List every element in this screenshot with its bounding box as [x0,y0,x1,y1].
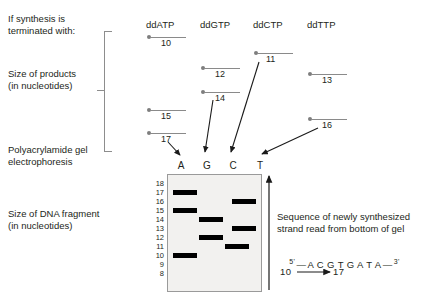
arrow-to-lane-G [205,100,213,152]
sequence-dash-right: — [381,259,393,270]
arrow-to-lane-T [262,128,318,154]
ladder-number-9: 9 [152,261,164,269]
ladder-number-16: 16 [152,198,164,206]
size-of-dna-fragment-label: Size of DNA fragment (in nucleotides) [8,208,99,231]
gel-band-A-15 [173,208,197,213]
lane-label-A: A [174,160,188,171]
product-size-value: 17 [161,134,171,144]
sequence-start-number: 10 [280,266,291,277]
ladder-number-10: 10 [152,252,164,260]
product-size-value: 16 [322,120,332,130]
gel-band-G-14 [199,217,223,222]
gel-band-C-11 [225,244,249,249]
ladder-number-17: 17 [152,189,164,197]
column-header-ddATP: ddATP [146,19,174,30]
lane-label-G: G [200,160,214,171]
ladder-number-11: 11 [152,243,164,251]
arrow-to-lane-C [231,62,259,152]
gel-band-T-13 [232,226,256,231]
lane-label-T: T [253,160,267,171]
gel-band-T-16 [232,199,256,204]
products-bracket [104,31,112,152]
ladder-number-13: 13 [152,225,164,233]
gel-band-A-17 [173,190,197,195]
products-bracket-tick [97,90,105,91]
gel-band-G-12 [199,235,223,240]
gel-band-A-10 [173,253,197,258]
sequence-end-number: 17 [333,266,344,277]
three-prime-label: 3' [394,258,400,265]
polyacrylamide-gel [167,174,262,292]
ladder-number-18: 18 [152,180,164,188]
sequence-bases: A C G T G A T A [308,259,382,270]
gel-method-label: Polyacrylamide gel electrophoresis [8,144,88,167]
product-size-value: 15 [161,111,171,121]
column-header-ddCTP: ddCTP [253,19,283,30]
ladder-number-8: 8 [152,270,164,278]
readout-caption: Sequence of newly synthesized strand rea… [277,211,410,234]
product-size-value: 11 [266,54,275,64]
lane-label-C: C [226,160,240,171]
product-size-value: 13 [322,75,332,85]
product-size-value: 12 [215,69,225,79]
ladder-number-14: 14 [152,216,164,224]
product-size-value: 14 [215,93,225,103]
ladder-number-12: 12 [152,234,164,242]
sequence-dash-left: — [295,259,307,270]
size-of-products-label: Size of products (in nucleotides) [8,68,76,91]
sanger-sequencing-diagram: If synthesis is terminated with: Size of… [0,0,433,298]
termination-label: If synthesis is terminated with: [8,13,75,36]
product-size-value: 10 [161,38,171,48]
column-header-ddTTP: ddTTP [307,19,336,30]
column-header-ddGTP: ddGTP [200,19,230,30]
ladder-number-15: 15 [152,207,164,215]
